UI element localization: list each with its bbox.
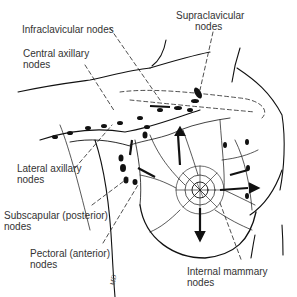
label-internal-mammary-nodes-line2: nodes: [187, 277, 214, 288]
label-pectoral-nodes-line2: nodes: [30, 259, 57, 270]
label-central-axillary-nodes-line1: Central axillary: [23, 48, 89, 59]
leader-pectoral: [103, 185, 138, 243]
leader-infraclavicular: [110, 28, 160, 100]
label-supraclavicular-nodes-line2: nodes: [195, 21, 222, 32]
label-lateral-axillary-nodes-line2: nodes: [17, 174, 44, 185]
label-supraclavicular-nodes-line1: Supraclavicular: [176, 10, 244, 21]
shoulder-contour: [18, 68, 150, 92]
label-subscapular-nodes-line2: nodes: [4, 221, 31, 232]
label-pectoral-nodes-line1: Pectoral (anterior): [30, 248, 110, 259]
leader-subscapular: [92, 178, 128, 205]
label-central-axillary-nodes-line2: nodes: [23, 59, 50, 70]
label-internal-mammary-nodes-line1: Internal mammary: [187, 266, 268, 277]
leader-internal-mammary: [220, 203, 242, 262]
breast-lymphatic-diagram: Infraclavicular nodes Central axillary n…: [0, 0, 297, 297]
label-infraclavicular-nodes: Infraclavicular nodes: [22, 24, 114, 35]
leader-supraclavicular: [200, 32, 213, 90]
leader-central-axillary: [85, 65, 115, 112]
label-subscapular-nodes-line1: Subscapular (posterior): [4, 210, 108, 221]
label-lateral-axillary-nodes-line1: Lateral axillary: [17, 163, 81, 174]
lymph-nodes: [52, 86, 250, 199]
